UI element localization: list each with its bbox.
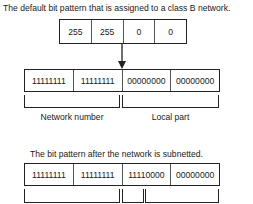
subnet-id-bracket [122, 189, 144, 203]
bits-octet-3: 00000000 [123, 70, 172, 91]
subnet-bits-octet-1: 11111111 [25, 164, 74, 185]
local-part-label: Local part [122, 112, 219, 122]
network-number-bracket [24, 95, 120, 108]
mask-octet-1: 255 [60, 20, 92, 43]
subnet-network-bracket [24, 189, 120, 203]
bits-octet-4: 00000000 [171, 70, 219, 91]
subnet-bits-octet-2: 11111111 [74, 164, 123, 185]
mask-octet-4: 0 [155, 20, 186, 43]
local-part-bracket [122, 95, 219, 108]
down-arrow-icon [116, 44, 128, 70]
mask-octet-3: 0 [124, 20, 156, 43]
subnetted-bits-row: 11111111 11111111 11110000 00000000 [24, 163, 220, 186]
mask-octet-2: 255 [92, 20, 124, 43]
bits-octet-1: 11111111 [25, 70, 74, 91]
bottom-caption: The bit pattern after the network is sub… [30, 149, 203, 159]
mask-decimal-row: 255 255 0 0 [59, 19, 187, 44]
subnet-host-bracket [145, 189, 219, 203]
subnet-bits-octet-3: 11110000 [123, 164, 172, 185]
bits-octet-2: 11111111 [74, 70, 123, 91]
subnet-bits-octet-4: 00000000 [171, 164, 219, 185]
default-bits-row: 11111111 11111111 00000000 00000000 [24, 69, 220, 92]
network-number-label: Network number [24, 112, 120, 122]
top-caption: The default bit pattern that is assigned… [3, 3, 230, 13]
